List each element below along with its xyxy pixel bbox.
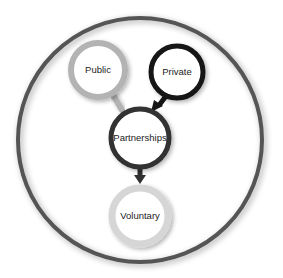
arrowhead-partnerships-to-voluntary xyxy=(134,175,146,184)
sector-diagram: Public Private Partnerships Voluntary xyxy=(0,0,283,278)
node-voluntary: Voluntary xyxy=(112,188,168,244)
node-partnerships: Partnerships xyxy=(111,109,169,167)
node-public: Public xyxy=(71,43,125,97)
node-voluntary-label: Voluntary xyxy=(120,210,160,221)
node-private-label: Private xyxy=(162,66,192,77)
node-private: Private xyxy=(151,46,203,98)
node-public-label: Public xyxy=(85,64,111,75)
node-partnerships-label: Partnerships xyxy=(113,132,167,143)
edge-public-to-partnerships xyxy=(113,95,122,110)
